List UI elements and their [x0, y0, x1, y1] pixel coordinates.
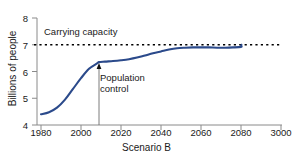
- x-tick-label-1980: 1980: [30, 127, 51, 138]
- population-scenario-b-chart: 8 7 6 5 4 1980 2000 2020 2040 2060 2080 …: [0, 0, 293, 158]
- x-tick-label-2000: 2000: [70, 127, 91, 138]
- population-control-line-2: control: [100, 83, 145, 94]
- y-axis-title: Billions of people: [7, 14, 18, 124]
- population-control-line-1: Population: [100, 72, 145, 83]
- carrying-capacity-annotation: Carrying capacity: [44, 26, 117, 37]
- population-control-annotation: Population control: [100, 72, 145, 94]
- x-tick-label-2080: 2080: [230, 127, 251, 138]
- x-tick-label-2020: 2020: [110, 127, 131, 138]
- y-axis-ticks: [32, 18, 37, 125]
- x-axis-title: Scenario B: [0, 142, 293, 153]
- x-tick-label-2060: 2060: [190, 127, 211, 138]
- x-tick-label-3000: 3000: [270, 127, 291, 138]
- x-tick-label-2040: 2040: [150, 127, 171, 138]
